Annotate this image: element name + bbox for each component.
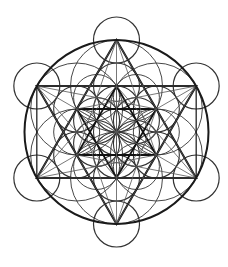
hexagram-lines xyxy=(37,40,196,224)
metatrons-cube-diagram xyxy=(0,0,228,267)
